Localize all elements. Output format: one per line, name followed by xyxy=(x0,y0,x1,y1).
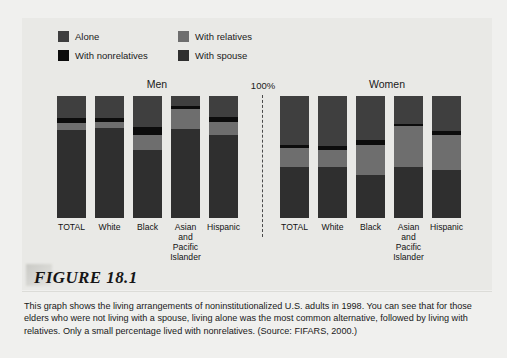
bar-segment-with-spouse xyxy=(57,130,86,218)
tick-label-line: Hispanic xyxy=(425,222,469,232)
bar-segment-alone xyxy=(280,96,309,145)
bar-segment-with-spouse xyxy=(318,167,347,218)
bar-column: Black xyxy=(356,96,385,218)
bar-column: White xyxy=(318,96,347,218)
chart-legend: Alone With nonrelatives With relatives W… xyxy=(58,30,308,74)
bar-column: Hispanic xyxy=(432,96,461,218)
bar-segment-with-spouse xyxy=(394,167,423,218)
bar-column: Black xyxy=(133,96,162,218)
bar-segment-alone xyxy=(95,96,124,118)
stacked-bar xyxy=(133,96,162,218)
axis-label-100-percent: 100% xyxy=(240,80,286,91)
bar-column: AsianandPacificIslander xyxy=(394,96,423,218)
tick-label-line: and xyxy=(164,232,208,242)
stacked-bar xyxy=(356,96,385,218)
bar-column: White xyxy=(95,96,124,218)
bar-segment-with-nonrelatives xyxy=(133,127,162,136)
stacked-bar xyxy=(209,96,238,218)
bar-segment-with-relatives xyxy=(318,150,347,167)
bar-segment-with-spouse xyxy=(280,167,309,218)
bar-segment-with-relatives xyxy=(280,148,309,166)
figure-page: Alone With nonrelatives With relatives W… xyxy=(0,0,507,358)
tick-label-line: Islander xyxy=(164,252,208,262)
bar-segment-with-relatives xyxy=(171,109,200,129)
bar-segment-with-spouse xyxy=(133,150,162,218)
legend-item-with-relatives: With relatives xyxy=(178,31,252,42)
legend-swatch-with-spouse xyxy=(178,50,189,61)
bar-segment-alone xyxy=(133,96,162,127)
bar-segment-with-spouse xyxy=(95,128,124,218)
bar-column: TOTAL xyxy=(57,96,86,218)
stacked-bar xyxy=(394,96,423,218)
bar-column: AsianandPacificIslander xyxy=(171,96,200,218)
bar-segment-with-relatives xyxy=(57,123,86,130)
legend-label-with-relatives: With relatives xyxy=(195,32,252,42)
tick-label-line: Islander xyxy=(387,252,431,262)
bar-segment-with-spouse xyxy=(432,170,461,218)
tick-label-line: Pacific xyxy=(387,242,431,252)
bar-segment-alone xyxy=(356,96,385,140)
legend-swatch-alone xyxy=(58,31,69,42)
bar-segment-alone xyxy=(318,96,347,146)
x-axis-tick-label: Hispanic xyxy=(202,222,246,232)
x-axis-tick-label: Hispanic xyxy=(425,222,469,232)
stacked-bar xyxy=(432,96,461,218)
legend-item-with-spouse: With spouse xyxy=(178,50,247,61)
tick-label-line: Pacific xyxy=(164,242,208,252)
bar-segment-alone xyxy=(171,96,200,106)
bar-segment-with-spouse xyxy=(356,175,385,218)
bar-column: Hispanic xyxy=(209,96,238,218)
stacked-bar xyxy=(95,96,124,218)
bar-segment-alone xyxy=(394,96,423,124)
figure-heading: FIGURE 18.1 xyxy=(34,268,138,288)
bar-segment-with-spouse xyxy=(209,135,238,218)
bar-segment-with-relatives xyxy=(133,135,162,150)
bar-segment-with-relatives xyxy=(356,145,385,176)
caption-divider xyxy=(22,291,492,292)
legend-item-with-nonrelatives: With nonrelatives xyxy=(58,50,148,61)
bar-segment-with-relatives xyxy=(394,126,423,166)
group-title-women: Women xyxy=(342,78,432,90)
group-title-men: Men xyxy=(112,78,202,90)
axis-dashed-line xyxy=(262,95,263,237)
chart-group-women: TOTALWhiteBlackAsianandPacificIslanderHi… xyxy=(280,96,462,221)
legend-swatch-with-relatives xyxy=(178,31,189,42)
legend-swatch-with-nonrelatives xyxy=(58,50,69,61)
chart-group-men: TOTALWhiteBlackAsianandPacificIslanderHi… xyxy=(57,96,239,221)
bar-column: TOTAL xyxy=(280,96,309,218)
stacked-bar xyxy=(318,96,347,218)
legend-label-alone: Alone xyxy=(75,32,99,42)
tick-label-line: and xyxy=(387,232,431,242)
bar-segment-with-relatives xyxy=(432,135,461,170)
figure-caption: This graph shows the living arrangements… xyxy=(24,300,486,337)
stacked-bar xyxy=(171,96,200,218)
legend-label-with-spouse: With spouse xyxy=(195,51,247,61)
stacked-bar xyxy=(280,96,309,218)
chart-panel: Alone With nonrelatives With relatives W… xyxy=(22,18,492,290)
bar-segment-with-relatives xyxy=(209,122,238,135)
bar-segment-alone xyxy=(432,96,461,131)
bar-segment-alone xyxy=(209,96,238,117)
bar-segment-alone xyxy=(57,96,86,118)
legend-label-with-nonrelatives: With nonrelatives xyxy=(75,51,148,61)
stacked-bar xyxy=(57,96,86,218)
legend-item-alone: Alone xyxy=(58,31,99,42)
bar-segment-with-spouse xyxy=(171,129,200,218)
tick-label-line: Hispanic xyxy=(202,222,246,232)
